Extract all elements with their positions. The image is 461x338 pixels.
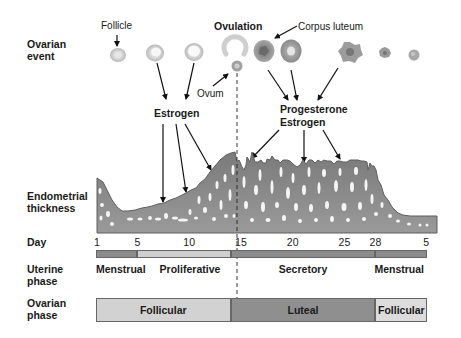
corpus-albicans-small [379, 47, 391, 58]
uterine-phase-segment [137, 250, 230, 258]
ovum [232, 61, 243, 72]
corpus-luteum-label: Corpus luteum [298, 21, 363, 32]
follicle-label: Follicle [101, 20, 132, 31]
day-tick-label: 25 [339, 236, 351, 248]
uterine-phase-segment [231, 250, 376, 258]
ovarian-phase-bar: FollicularLutealFollicular [96, 298, 437, 322]
uterine-phase-label: Menstrual [374, 263, 424, 275]
corpus-luteum-early [254, 40, 275, 62]
follicle-to-estrogen-arrow [157, 63, 166, 99]
progesterone-label: Progesterone [280, 104, 348, 115]
day-tick-label: 5 [423, 236, 429, 248]
day-tick-label: 5 [134, 236, 140, 248]
ovarian-phase-label: Luteal [288, 304, 319, 316]
corpus-luteum-to-hormone-arrow [268, 70, 288, 100]
follicle-primary [110, 48, 126, 62]
uterine-phase-segment [375, 250, 427, 258]
ovum-label: Ovum [197, 88, 224, 99]
uterine-phase-bar [96, 250, 437, 258]
corpus-luteum-to-hormone-arrow [318, 68, 338, 100]
ovarian-phase-label: Follicular [140, 304, 187, 316]
corpus-luteum-to-hormone-arrow [291, 70, 297, 100]
day-tick-label: 20 [287, 236, 299, 248]
day-tick-label: 1 [94, 236, 100, 248]
uterine-phase-label: Menstrual [96, 263, 146, 275]
progesterone-to-endometrium-arrow [252, 130, 279, 158]
estrogen-luteal-label: Estrogen [280, 117, 326, 128]
endometrial-thickness-graphic [97, 152, 437, 233]
estrogen-to-endometrium-arrow [185, 124, 211, 170]
uterine-phase-label: Secretory [279, 263, 327, 275]
day-tick-label: 28 [370, 236, 382, 248]
corpus-luteum [281, 40, 302, 63]
follicle-to-estrogen-arrow [186, 63, 194, 99]
follicle-mature [185, 43, 204, 61]
ovum-pointer-arrow [213, 74, 228, 86]
uterine-phase-label: Proliferative [160, 263, 221, 275]
menstrual-cycle-diagram [0, 0, 461, 338]
ovulation-label: Ovulation [214, 21, 262, 32]
corpus-albicans [409, 50, 420, 61]
ovarian-phase-segment: Follicular [375, 298, 427, 322]
ruptured-follicle [224, 37, 246, 54]
corpus-luteum-regressing [338, 42, 363, 63]
day-tick-label: 15 [235, 236, 247, 248]
estrogen-to-endometrium-arrow [176, 124, 186, 192]
progesterone-to-endometrium-arrow [323, 130, 340, 159]
estrogen-label: Estrogen [154, 108, 200, 119]
ovarian-phase-segment: Follicular [96, 298, 231, 322]
follicle-secondary [146, 45, 164, 62]
ovarian-phase-label: Follicular [378, 304, 425, 316]
uterine-phase-segment [96, 250, 137, 258]
ovarian-phase-segment: Luteal [231, 298, 376, 322]
corpus-luteum-pointer-arrow [275, 26, 297, 38]
day-tick-label: 10 [183, 236, 195, 248]
